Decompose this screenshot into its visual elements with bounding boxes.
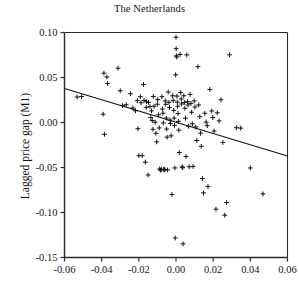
y-tick-label: -0.10 xyxy=(36,207,58,218)
data-point xyxy=(219,97,224,102)
data-point xyxy=(161,111,166,116)
data-point xyxy=(234,125,239,130)
data-point xyxy=(172,166,177,171)
x-tick-label: 0.04 xyxy=(241,264,260,275)
y-tick-label: 0.10 xyxy=(39,27,57,38)
data-point xyxy=(168,121,173,126)
data-point xyxy=(164,127,169,132)
data-point xyxy=(173,236,178,241)
data-point xyxy=(177,150,182,155)
data-point xyxy=(189,110,194,115)
data-point xyxy=(176,111,181,116)
data-point xyxy=(105,81,110,86)
data-point xyxy=(154,139,159,144)
data-point xyxy=(180,164,185,169)
data-point xyxy=(172,123,177,128)
data-point xyxy=(154,131,159,136)
data-point xyxy=(165,168,170,173)
data-point xyxy=(173,72,178,77)
data-point xyxy=(171,108,176,113)
data-point xyxy=(181,241,186,246)
data-point xyxy=(101,71,106,76)
data-point xyxy=(200,176,205,181)
data-point xyxy=(190,121,195,126)
data-point xyxy=(165,135,170,140)
y-tick-label: -0.15 xyxy=(36,252,58,263)
x-tick-label: 0.06 xyxy=(278,264,296,275)
data-point xyxy=(199,144,204,149)
data-point xyxy=(157,126,162,131)
data-point xyxy=(222,213,227,218)
data-point xyxy=(175,94,180,99)
data-point xyxy=(138,94,143,99)
data-point xyxy=(178,90,183,95)
data-point xyxy=(167,105,172,110)
data-point xyxy=(205,123,210,128)
y-tick-label: -0.05 xyxy=(36,162,58,173)
data-point xyxy=(176,128,181,133)
data-point xyxy=(202,111,207,116)
data-point xyxy=(151,94,156,99)
data-point xyxy=(136,126,141,131)
data-point xyxy=(151,127,156,132)
data-point xyxy=(209,109,214,114)
data-point xyxy=(101,112,106,117)
data-point xyxy=(102,132,107,137)
x-tick-label: 0.00 xyxy=(167,264,185,275)
data-point xyxy=(143,160,148,165)
data-point xyxy=(174,46,179,51)
x-tick-label: -0.06 xyxy=(54,264,76,275)
data-point xyxy=(206,184,211,189)
data-point xyxy=(75,95,80,100)
data-point xyxy=(201,190,206,195)
data-point xyxy=(155,97,160,102)
data-point xyxy=(159,94,164,99)
data-point xyxy=(175,100,180,105)
scatter-plot-figure: The Netherlands Lagged price gap (M1) 0.… xyxy=(0,0,299,299)
axis-layer xyxy=(65,33,288,258)
x-tick-layer: -0.06-0.04-0.020.000.020.040.06 xyxy=(54,258,297,275)
data-point xyxy=(79,94,84,99)
data-point xyxy=(141,82,146,87)
data-point xyxy=(104,75,109,80)
data-point xyxy=(196,64,201,69)
data-point xyxy=(207,87,212,92)
data-point xyxy=(170,93,175,98)
regression-line xyxy=(65,88,288,155)
data-point xyxy=(118,88,123,93)
x-tick-label: -0.04 xyxy=(91,264,114,275)
data-point xyxy=(183,116,188,121)
data-point xyxy=(248,166,253,171)
data-point xyxy=(194,138,199,143)
y-tick-label: 0.05 xyxy=(39,72,57,83)
data-point xyxy=(214,207,219,212)
data-point xyxy=(238,126,243,131)
data-point xyxy=(116,66,121,71)
x-tick-label: 0.02 xyxy=(204,264,222,275)
data-point xyxy=(161,121,166,126)
data-point xyxy=(172,116,177,121)
regression-line-layer xyxy=(65,88,288,155)
data-point xyxy=(174,55,179,60)
data-point xyxy=(197,114,202,119)
x-tick-label: -0.02 xyxy=(128,264,150,275)
y-tick-label: 0.00 xyxy=(39,117,57,128)
data-point xyxy=(180,165,185,170)
plot-canvas: 0.100.050.00-0.05-0.10-0.15 -0.06-0.04-0… xyxy=(0,0,299,299)
data-point xyxy=(184,154,189,159)
data-point xyxy=(183,106,188,111)
data-point xyxy=(170,192,175,197)
data-point xyxy=(188,92,193,97)
data-point xyxy=(169,133,174,138)
data-point xyxy=(175,104,180,109)
data-point xyxy=(128,91,133,96)
data-point xyxy=(191,164,196,169)
data-point xyxy=(220,140,225,145)
data-point xyxy=(144,105,149,110)
data-point xyxy=(192,99,197,104)
data-point xyxy=(204,120,209,125)
data-point xyxy=(181,93,186,98)
data-point xyxy=(184,53,189,58)
data-point xyxy=(198,131,203,136)
data-point xyxy=(224,200,229,205)
